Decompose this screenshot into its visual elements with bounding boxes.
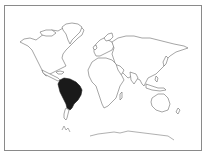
world-map — [0, 0, 207, 155]
region-south-america-highlighted[interactable] — [58, 78, 82, 110]
region-caribbean — [56, 71, 64, 74]
region-europe[interactable] — [94, 38, 114, 56]
region-australia[interactable] — [151, 94, 170, 112]
region-madagascar — [120, 92, 122, 100]
region-philippines — [155, 76, 158, 82]
region-new-zealand — [176, 108, 180, 114]
region-indonesia — [146, 84, 166, 91]
region-scandinavia — [104, 33, 113, 41]
region-antarctic-peninsula — [62, 126, 70, 132]
region-arctic-islands — [40, 30, 56, 36]
region-southern-cone[interactable] — [64, 108, 69, 120]
region-antarctica[interactable] — [90, 131, 174, 140]
